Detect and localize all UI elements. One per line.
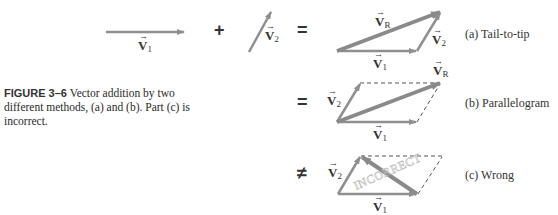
panel-b-parallelogram (337, 83, 440, 122)
label-v1-c: →V1 (373, 199, 387, 215)
label-v2-b: →V2 (327, 93, 341, 109)
label-v2-c: →V2 (328, 165, 342, 181)
panel-a-label: (a) Tail-to-tip (465, 27, 530, 42)
figure-number: FIGURE 3–6 (4, 87, 67, 99)
label-v1-b: →V1 (373, 127, 387, 143)
plus-operator: + (214, 20, 225, 41)
label-v2-a: →V2 (432, 32, 446, 48)
panel-b-label: (b) Parallelogram (465, 96, 549, 111)
equals-operator-b: = (297, 92, 308, 113)
label-vR-b: →VR (433, 63, 448, 79)
panel-c-wrong: INCORRECT (338, 150, 442, 194)
label-vR-a: →VR (375, 14, 390, 30)
figure-caption: FIGURE 3–6 Vector addition by two differ… (4, 86, 204, 128)
panel-c-label: (c) Wrong (465, 168, 514, 183)
label-v1-a: →V1 (373, 56, 387, 72)
label-v2-top: →V2 (265, 28, 279, 44)
label-v1-top: →V1 (138, 38, 152, 54)
equals-operator-a: = (297, 20, 308, 41)
not-equal-operator-c: ≠ (297, 163, 307, 184)
